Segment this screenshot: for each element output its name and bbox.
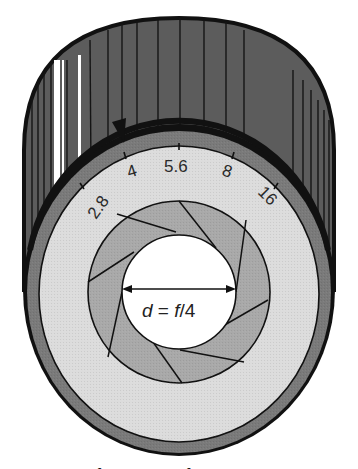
lens-aperture-figure: 2.8 4 5.6 8 16	[0, 0, 358, 469]
aperture-formula: d = f/4	[142, 300, 196, 321]
f-stop-5-6: 5.6	[164, 157, 188, 176]
aperture-opening	[122, 235, 236, 349]
caption-text: Fig. ... The f-number of a lens	[2, 462, 358, 469]
figure-caption-fragment: Fig. ... The f-number of a lens	[0, 460, 358, 469]
lens-diagram: 2.8 4 5.6 8 16	[0, 0, 358, 469]
